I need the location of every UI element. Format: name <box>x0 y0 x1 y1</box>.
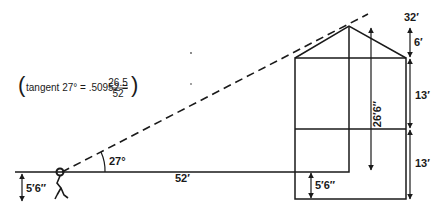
eye-height-left-label: 5′6″ <box>26 182 47 194</box>
formula-numerator: 26.5 <box>108 77 128 88</box>
sight-height-label: 26′6″ <box>371 100 383 127</box>
speck <box>190 83 192 85</box>
upper-section-label: 13′ <box>415 89 430 101</box>
speck <box>190 52 192 54</box>
building <box>295 26 406 199</box>
height-estimation-diagram: ( tangent 27° = .50952 = 26.5 52 ) 27° 5… <box>0 0 439 216</box>
eye-height-right-label: 5′6″ <box>315 179 336 191</box>
angle-label: 27° <box>109 155 126 167</box>
close-paren: ) <box>131 72 138 97</box>
line-of-sight <box>62 14 368 172</box>
lower-section-label: 13′ <box>415 157 430 169</box>
roof-height-label: 6′ <box>414 36 423 48</box>
observer-figure <box>55 169 68 200</box>
total-height-label: 32′ <box>404 11 419 23</box>
distance-label: 52′ <box>175 172 190 184</box>
open-paren: ( <box>18 72 26 97</box>
tangent-formula: ( tangent 27° = .50952 = 26.5 52 ) <box>18 72 138 99</box>
eye-level-line <box>15 26 349 172</box>
angle-arc <box>101 152 105 172</box>
formula-denominator: 52 <box>112 88 124 99</box>
